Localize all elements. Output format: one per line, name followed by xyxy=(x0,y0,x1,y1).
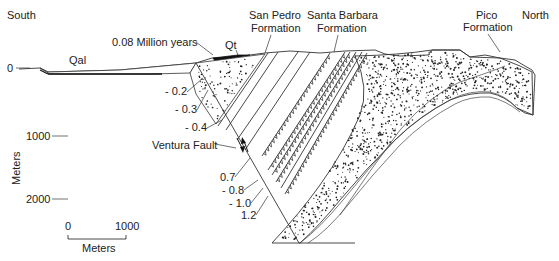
stipple-dot xyxy=(463,58,465,60)
stipple-dot xyxy=(468,68,470,70)
stipple-dot xyxy=(383,81,384,82)
stipple-dot xyxy=(397,67,399,69)
stipple-dot xyxy=(229,67,230,68)
stipple-dot xyxy=(305,204,307,206)
stipple-dot xyxy=(454,80,455,81)
stipple-dot xyxy=(352,130,354,132)
stipple-dot xyxy=(420,59,421,60)
stipple-dot xyxy=(333,181,334,182)
age-marker: - 0.3 xyxy=(175,103,197,115)
stipple-dot xyxy=(427,71,429,73)
stipple-dot xyxy=(344,151,345,152)
stipple-dot xyxy=(410,69,412,71)
stipple-dot xyxy=(301,213,303,215)
stipple-dot xyxy=(402,79,403,80)
stipple-dot xyxy=(297,215,298,216)
stipple-dot xyxy=(377,94,378,95)
stipple-dot xyxy=(313,210,314,211)
stipple-dot xyxy=(396,73,398,75)
stipple-dot xyxy=(485,67,487,69)
age-marker-leader xyxy=(251,188,263,203)
stipple-dot xyxy=(371,89,372,90)
stipple-dot xyxy=(526,101,527,102)
stipple-dot xyxy=(205,84,207,86)
stipple-dot xyxy=(492,80,494,82)
stipple-dot xyxy=(378,70,379,71)
stipple-dot xyxy=(361,111,362,112)
stipple-dot xyxy=(317,209,318,210)
stipple-dot xyxy=(394,64,395,65)
stipple-dot xyxy=(484,79,486,81)
stipple-dot xyxy=(378,133,380,135)
stipple-dot xyxy=(313,222,315,224)
stipple-dot xyxy=(357,145,358,146)
stipple-dot xyxy=(396,98,398,100)
stipple-dot xyxy=(348,139,350,141)
stipple-dot xyxy=(452,56,453,57)
stipple-dot xyxy=(219,83,221,85)
stipple-dot xyxy=(302,221,303,222)
stipple-dot xyxy=(350,169,351,170)
santa-barbara-beds xyxy=(262,52,367,194)
stipple-dot xyxy=(423,78,425,80)
stipple-dot xyxy=(508,63,510,65)
stipple-dot xyxy=(453,79,454,80)
stipple-dot xyxy=(319,196,321,198)
stipple-dot xyxy=(408,93,409,94)
stipple-dot xyxy=(376,77,377,78)
stipple-dot xyxy=(327,202,329,204)
stipple-dot xyxy=(418,65,419,66)
stipple-dot xyxy=(466,75,467,76)
stipple-dot xyxy=(498,86,500,88)
stipple-dot xyxy=(401,101,402,102)
stipple-dot xyxy=(459,63,461,65)
stipple-dot xyxy=(390,105,392,107)
stipple-dot xyxy=(388,120,390,122)
stipple-dot xyxy=(400,116,402,118)
stipple-dot xyxy=(284,231,286,233)
stipple-dot xyxy=(376,154,377,155)
stipple-dot xyxy=(229,92,230,93)
san-pedro-label-line2: Formation xyxy=(251,22,301,34)
stipple-dot xyxy=(303,222,304,223)
stipple-dot xyxy=(526,81,528,83)
stipple-dot xyxy=(476,66,478,68)
stipple-dot xyxy=(473,79,474,80)
stipple-dot xyxy=(420,90,421,91)
stipple-dot xyxy=(482,85,483,86)
stipple-dot xyxy=(343,192,344,193)
stipple-dot xyxy=(332,167,334,169)
stipple-dot xyxy=(229,70,231,72)
stipple-dot xyxy=(432,101,433,102)
stipple-dot xyxy=(391,82,392,83)
stipple-dot xyxy=(309,214,311,216)
stipple-dot xyxy=(321,215,322,216)
stipple-dot xyxy=(487,76,489,78)
stipple-dot xyxy=(418,106,420,108)
stipple-dot xyxy=(379,100,380,101)
stipple-dot xyxy=(200,81,201,82)
stipple-dot xyxy=(293,220,295,222)
santa-barbara-label-line2: Formation xyxy=(317,22,367,34)
stipple-dot xyxy=(502,76,504,78)
stipple-dot xyxy=(481,78,482,79)
stipple-dot xyxy=(400,97,401,98)
stipple-dot xyxy=(394,64,396,66)
stipple-dot xyxy=(336,199,338,201)
stipple-dot xyxy=(461,62,463,64)
stipple-dot xyxy=(400,67,401,68)
stipple-dot xyxy=(473,65,474,66)
stipple-dot xyxy=(378,110,379,111)
stipple-dot xyxy=(407,64,409,66)
stipple-dot xyxy=(364,112,365,113)
stipple-dot xyxy=(333,204,335,206)
stipple-dot xyxy=(405,107,406,108)
stipple-dot xyxy=(414,69,416,71)
stipple-dot xyxy=(387,136,388,137)
stipple-dot xyxy=(347,156,349,158)
stipple-dot xyxy=(400,104,401,105)
stipple-dot xyxy=(407,60,408,61)
stipple-dot xyxy=(206,100,208,102)
stipple-dot xyxy=(449,84,451,86)
stipple-dot xyxy=(383,132,384,133)
